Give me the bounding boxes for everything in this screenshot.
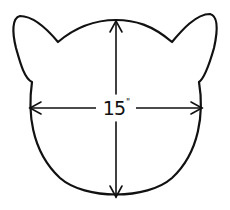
dimension-unit: " xyxy=(126,97,129,107)
dimension-value: 15 xyxy=(103,97,125,119)
dimension-label: 15" xyxy=(96,96,136,120)
